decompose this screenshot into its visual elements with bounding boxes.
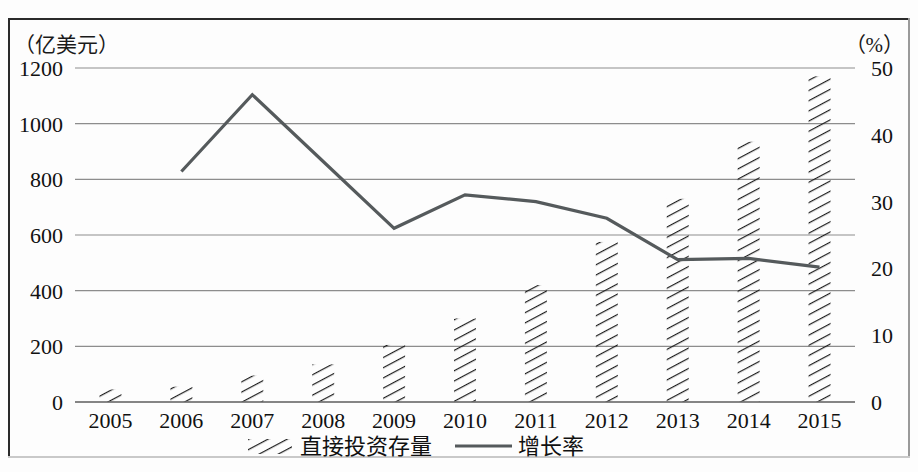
legend-bars-label: 直接投资存量 — [300, 434, 432, 459]
bar-2013 — [667, 199, 689, 402]
x-tick-2013: 2013 — [656, 408, 700, 433]
left-tick-1000: 1000 — [19, 112, 63, 137]
x-tick-2009: 2009 — [372, 408, 416, 433]
bars-group — [99, 76, 830, 402]
bar-2009 — [383, 345, 405, 402]
bar-2015 — [809, 76, 831, 402]
legend-bars-swatch — [248, 439, 292, 454]
chart-legend: 直接投资存量增长率 — [248, 434, 584, 459]
right-tick-30: 30 — [871, 190, 893, 215]
bar-2007 — [241, 376, 263, 402]
x-tick-2006: 2006 — [159, 408, 203, 433]
x-tick-2011: 2011 — [514, 408, 557, 433]
right-tick-0: 0 — [871, 390, 882, 415]
bar-2011 — [525, 285, 547, 402]
x-tick-2015: 2015 — [798, 408, 842, 433]
bar-2008 — [312, 364, 334, 402]
bar-2005 — [99, 389, 121, 402]
left-tick-0: 0 — [52, 390, 63, 415]
legend-line-label: 增长率 — [518, 434, 584, 459]
x-tick-2014: 2014 — [727, 408, 771, 433]
left-tick-1200: 1200 — [19, 56, 63, 81]
bar-2006 — [170, 387, 192, 402]
x-tick-2008: 2008 — [301, 408, 345, 433]
right-tick-40: 40 — [871, 123, 893, 148]
right-tick-20: 20 — [871, 256, 893, 281]
x-tick-2005: 2005 — [88, 408, 132, 433]
x-axis-tick-labels: 2005200620072008200920102011201220132014… — [88, 408, 841, 433]
right-tick-10: 10 — [871, 323, 893, 348]
right-tick-50: 50 — [871, 56, 893, 81]
growth-rate-line — [181, 95, 819, 267]
right-axis-tick-labels: 01020304050 — [871, 56, 893, 415]
line-series-group — [181, 95, 819, 267]
chart-plot-area: 020040060080010001200 01020304050 200520… — [0, 0, 918, 472]
x-tick-2012: 2012 — [585, 408, 629, 433]
bar-2014 — [738, 142, 760, 402]
bar-2010 — [454, 319, 476, 403]
bar-2012 — [596, 242, 618, 402]
left-tick-200: 200 — [30, 334, 63, 359]
chart-figure: （亿美元） （%） 020040060080010001200 01020304… — [0, 0, 918, 472]
left-axis-tick-labels: 020040060080010001200 — [19, 56, 63, 415]
x-tick-2010: 2010 — [443, 408, 487, 433]
left-tick-400: 400 — [30, 279, 63, 304]
left-tick-800: 800 — [30, 167, 63, 192]
x-tick-2007: 2007 — [230, 408, 274, 433]
left-tick-600: 600 — [30, 223, 63, 248]
